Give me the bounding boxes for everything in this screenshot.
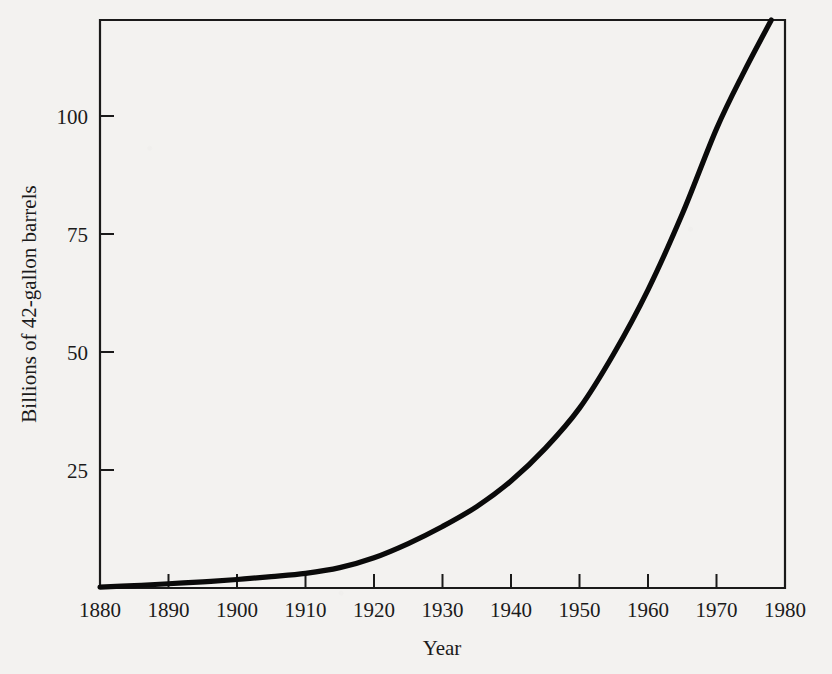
y-tick-label-75: 75 <box>67 223 88 247</box>
y-tick-label-25: 25 <box>67 459 88 483</box>
x-tick-label-1890: 1890 <box>148 598 190 622</box>
x-tick-label-1920: 1920 <box>353 598 395 622</box>
x-axis-title: Year <box>423 636 462 660</box>
y-tick-label-50: 50 <box>67 341 88 365</box>
y-axis-title: Billions of 42-gallon barrels <box>17 185 41 422</box>
axes-border <box>100 20 785 588</box>
x-tick-label-1880: 1880 <box>79 598 121 622</box>
plot-frame <box>100 20 785 588</box>
x-tick-label-1970: 1970 <box>696 598 738 622</box>
figure-container: 1880 1890 1900 1910 1920 1930 1940 1950 … <box>0 0 832 674</box>
x-tick-label-1900: 1900 <box>216 598 258 622</box>
y-axis-tick-labels: 25 50 75 100 <box>57 105 89 483</box>
line-chart: 1880 1890 1900 1910 1920 1930 1940 1950 … <box>0 0 832 674</box>
x-tick-label-1980: 1980 <box>764 598 806 622</box>
x-tick-label-1910: 1910 <box>285 598 327 622</box>
x-tick-label-1950: 1950 <box>559 598 601 622</box>
y-axis-ticks <box>100 116 114 470</box>
y-tick-label-100: 100 <box>57 105 89 129</box>
x-tick-label-1960: 1960 <box>627 598 669 622</box>
x-axis-tick-labels: 1880 1890 1900 1910 1920 1930 1940 1950 … <box>79 598 806 622</box>
x-tick-label-1940: 1940 <box>490 598 532 622</box>
data-series-line <box>100 20 771 587</box>
x-tick-label-1930: 1930 <box>422 598 464 622</box>
